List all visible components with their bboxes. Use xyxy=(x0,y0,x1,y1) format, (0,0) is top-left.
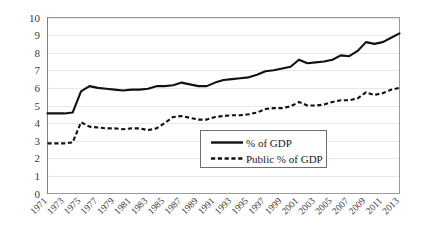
line-chart: 012345678910 197119731975197719791981198… xyxy=(0,0,422,231)
y-axis-tick-label: 8 xyxy=(35,47,41,59)
legend-label-0: % of GDP xyxy=(246,137,292,149)
y-axis-tick-label: 5 xyxy=(35,100,41,112)
y-axis-tick-label: 4 xyxy=(35,117,41,129)
y-axis-tick-label: 9 xyxy=(35,29,41,41)
y-axis-tick-label: 10 xyxy=(29,12,41,24)
y-axis-tick-label: 2 xyxy=(35,152,41,164)
chart-canvas: 012345678910 197119731975197719791981198… xyxy=(0,0,422,231)
y-axis-tick-label: 1 xyxy=(35,170,41,182)
y-axis-tick-label: 3 xyxy=(35,135,41,147)
y-axis-tick-label: 6 xyxy=(35,82,41,94)
legend-label-1: Public % of GDP xyxy=(246,153,323,165)
legend: % of GDP Public % of GDP xyxy=(201,131,327,168)
y-axis-tick-label: 7 xyxy=(35,64,41,76)
